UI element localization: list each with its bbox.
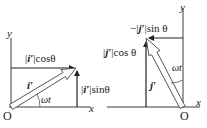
j-prime-vector-arrow: [146, 38, 185, 109]
j-prime-label: j′: [150, 80, 156, 91]
left-horizontal-component-label: |i′|cosθ: [25, 53, 56, 64]
right-y-axis-label: y: [180, 2, 185, 13]
right-horizontal-component-label: −|j′|sin θ: [130, 23, 168, 34]
trig-suffix: |sin θ: [145, 22, 168, 34]
trig-suffix: |sinθ: [89, 83, 109, 95]
left-y-axis-label: y: [7, 28, 12, 39]
trig-suffix: |cos θ: [111, 46, 136, 58]
right-origin-label: O: [180, 110, 189, 122]
trig-suffix: |cosθ: [33, 52, 55, 64]
i-prime-label: i′: [27, 80, 33, 91]
left-origin-label: O: [3, 110, 12, 122]
left-angle-arc: [37, 94, 40, 107]
left-vertical-component-label: |i′|sinθ: [81, 84, 110, 95]
rotating-unit-vectors-diagram: y |i′|cosθ i′ ωt O x |i′|sinθ y −|j′|sin…: [0, 0, 207, 128]
right-angle-label: ωt: [172, 63, 182, 73]
right-x-axis-label: x: [196, 97, 201, 108]
left-angle-label: ωt: [41, 95, 51, 105]
right-vertical-component-label: |j′|cos θ: [103, 47, 136, 58]
left-x-axis-label: x: [89, 103, 94, 114]
